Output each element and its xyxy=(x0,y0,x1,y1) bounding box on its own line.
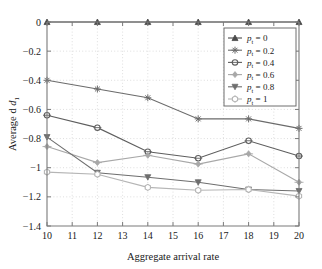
y-tick-label: −0.2 xyxy=(23,46,41,57)
x-tick-label: 14 xyxy=(143,230,153,241)
data-point-star xyxy=(245,115,252,122)
data-point-hexagon xyxy=(145,184,150,190)
x-tick-label: 10 xyxy=(42,230,52,241)
data-point-star xyxy=(232,47,239,54)
legend-label-2: pt = 0.4 xyxy=(246,58,275,69)
data-point-diamond xyxy=(194,161,203,167)
chart-figure: 10111213141516171819200−0.2−0.4−0.6−0.8−… xyxy=(0,0,322,269)
y-tick-label: −0.6 xyxy=(23,104,41,115)
y-tick-label: −1 xyxy=(30,162,41,173)
data-point-circle-open xyxy=(194,156,202,161)
y-tick-label: −1.4 xyxy=(23,221,41,232)
y-axis-title: Average d d1 xyxy=(7,96,21,151)
data-point-hexagon xyxy=(95,171,100,177)
data-point-star xyxy=(94,86,101,93)
x-tick-label: 19 xyxy=(269,230,279,241)
data-point-hexagon xyxy=(246,187,251,193)
series-5 xyxy=(44,169,301,199)
axis-titles: Aggregate arrival rateAverage d d1 xyxy=(7,96,219,262)
legend-label-5: pt = 1 xyxy=(246,94,267,105)
x-tick-label: 11 xyxy=(67,230,77,241)
x-tick-label: 13 xyxy=(118,230,128,241)
data-point-star xyxy=(195,115,202,122)
legend-label-1: pt = 0.2 xyxy=(246,46,274,57)
data-point-star xyxy=(144,94,151,101)
x-tick-label: 17 xyxy=(218,230,228,241)
x-tick-label: 18 xyxy=(244,230,254,241)
data-point-diamond xyxy=(93,160,102,166)
x-tick-label: 20 xyxy=(294,230,304,241)
x-tick-label: 15 xyxy=(168,230,178,241)
chart-legend: pt = 0pt = 0.2pt = 0.4pt = 0.6pt = 0.8pt… xyxy=(224,28,296,106)
legend-label-0: pt = 0 xyxy=(246,33,268,44)
y-tick-label: −0.4 xyxy=(23,75,41,86)
data-point-diamond xyxy=(143,152,152,158)
x-tick-label: 16 xyxy=(193,230,203,241)
average-d1-line-chart: 10111213141516171819200−0.2−0.4−0.6−0.8−… xyxy=(0,0,322,269)
series-4 xyxy=(44,135,302,194)
x-axis-title: Aggregate arrival rate xyxy=(127,251,219,262)
data-point-hexagon xyxy=(196,187,201,193)
x-tick-label: 12 xyxy=(92,230,102,241)
y-tick-label: −0.8 xyxy=(23,133,41,144)
legend-label-3: pt = 0.6 xyxy=(246,70,275,81)
legend-label-4: pt = 0.8 xyxy=(246,82,275,93)
y-tick-label: 0 xyxy=(36,17,41,28)
data-point-hexagon xyxy=(232,96,237,102)
y-tick-label: −1.2 xyxy=(23,191,41,202)
